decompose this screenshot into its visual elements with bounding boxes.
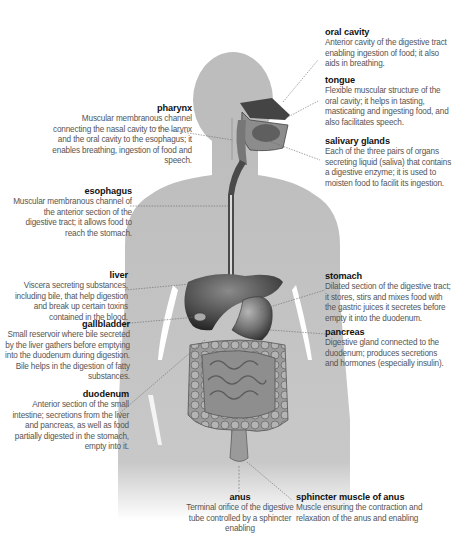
label-title: pancreas — [325, 326, 450, 338]
label-desc: Anterior cavity of the digestive tract e… — [325, 38, 450, 70]
label-desc: Anterior section of the small intestine;… — [4, 400, 129, 453]
label-title: tongue — [325, 74, 450, 86]
label-title: pharynx — [44, 102, 192, 114]
label-oral-cavity: oral cavity Anterior cavity of the diges… — [325, 26, 450, 70]
gallbladder-organ — [194, 313, 206, 321]
label-desc: Muscular membranous channel connecting t… — [44, 114, 192, 167]
small-intestine — [202, 351, 275, 418]
label-title: gallbladder — [0, 318, 130, 330]
label-liver: liver Viscera secreting substances, incl… — [10, 269, 128, 323]
label-title: esophagus — [12, 185, 132, 197]
label-pharynx: pharynx Muscular membranous channel conn… — [44, 102, 192, 167]
label-salivary-glands: salivary glands Each of the three pairs … — [325, 135, 453, 189]
label-anus: anus Terminal orifice of the digestive t… — [180, 491, 300, 535]
label-stomach: stomach Dilated section of the digestive… — [325, 270, 453, 324]
label-title: sphincter muscle of anus — [296, 491, 436, 503]
label-title: oral cavity — [325, 26, 450, 38]
label-esophagus: esophagus Muscular membranous channel of… — [12, 185, 132, 239]
label-title: duodenum — [4, 388, 129, 400]
label-title: salivary glands — [325, 135, 453, 147]
label-title: anus — [180, 491, 300, 503]
label-sphincter-muscle-of-anus: sphincter muscle of anus Muscle ensuring… — [296, 491, 436, 524]
label-pancreas: pancreas Digestive gland connected to th… — [325, 326, 450, 370]
label-tongue: tongue Flexible muscular structure of th… — [325, 74, 450, 128]
label-desc: Digestive gland connected to the duodenu… — [325, 338, 450, 370]
label-desc: Terminal orifice of the digestive tube c… — [180, 503, 300, 535]
label-desc: Small reservoir where bile secreted by t… — [0, 330, 130, 383]
rectum — [230, 430, 248, 462]
label-desc: Dilated section of the digestive tract; … — [325, 282, 453, 324]
label-gallbladder: gallbladder Small reservoir where bile s… — [0, 318, 130, 383]
label-desc: Muscle ensuring the contraction and rela… — [296, 503, 436, 524]
label-title: liver — [10, 269, 128, 281]
label-duodenum: duodenum Anterior section of the small i… — [4, 388, 129, 453]
label-title: stomach — [325, 270, 453, 282]
label-desc: Flexible muscular structure of the oral … — [325, 86, 450, 128]
label-desc: Each of the three pairs of organs secret… — [325, 147, 453, 189]
label-desc: Muscular membranous channel of the anter… — [12, 197, 132, 239]
